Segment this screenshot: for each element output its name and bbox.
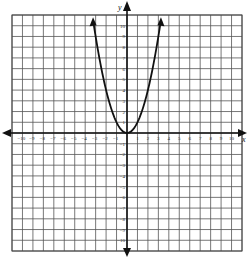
x-tick-label: 9 — [220, 136, 223, 141]
y-tick-label: −9 — [120, 228, 126, 233]
y-tick-label: 4 — [123, 88, 126, 93]
y-tick-label: −6 — [120, 195, 126, 200]
y-tick-label: −2 — [120, 152, 126, 157]
x-tick-label: −10 — [18, 136, 26, 141]
x-tick-label: 5 — [178, 136, 181, 141]
x-tick-label: −8 — [40, 136, 46, 141]
y-tick-label: 5 — [123, 77, 126, 82]
x-axis-label: x — [241, 135, 246, 144]
x-axis-left-arrow-icon — [2, 129, 11, 137]
x-tick-label: 6 — [188, 136, 191, 141]
y-tick-label: 10 — [120, 24, 126, 29]
x-tick-label: −4 — [82, 136, 88, 141]
x-tick-label: 8 — [209, 136, 212, 141]
y-tick-label: 6 — [123, 67, 126, 72]
x-tick-label: −9 — [29, 136, 35, 141]
y-tick-label: 2 — [123, 110, 126, 115]
x-tick-label: −5 — [71, 136, 77, 141]
y-tick-label: 3 — [123, 99, 126, 104]
x-tick-label: −3 — [92, 136, 98, 141]
y-tick-label: −5 — [120, 185, 126, 190]
x-tick-label: 3 — [157, 136, 160, 141]
y-tick-label: −4 — [120, 174, 126, 179]
x-tick-label: −2 — [102, 136, 108, 141]
y-tick-label: 1 — [123, 120, 126, 125]
x-tick-label: 10 — [229, 136, 235, 141]
y-tick-label: −10 — [117, 238, 125, 243]
y-axis-label: y — [117, 3, 122, 12]
y-tick-label: −8 — [120, 217, 126, 222]
y-axis-up-arrow-icon — [123, 1, 131, 11]
y-tick-label: 8 — [123, 45, 126, 50]
y-tick-label: 9 — [123, 34, 126, 39]
x-tick-label: −1 — [113, 136, 119, 141]
x-tick-label: −6 — [61, 136, 67, 141]
x-tick-label: 1 — [136, 136, 139, 141]
x-tick-label: 2 — [147, 136, 150, 141]
x-tick-label: −7 — [50, 136, 56, 141]
coordinate-plane: −10−9−8−7−6−5−4−3−2−11234567891010987654… — [0, 0, 248, 258]
y-axis-down-arrow-icon — [123, 248, 131, 257]
y-tick-label: −1 — [120, 142, 126, 147]
y-tick-label: −3 — [120, 163, 126, 168]
x-tick-label: 7 — [199, 136, 202, 141]
y-tick-label: −7 — [120, 206, 126, 211]
x-tick-label: 4 — [168, 136, 171, 141]
y-tick-label: 7 — [123, 56, 126, 61]
